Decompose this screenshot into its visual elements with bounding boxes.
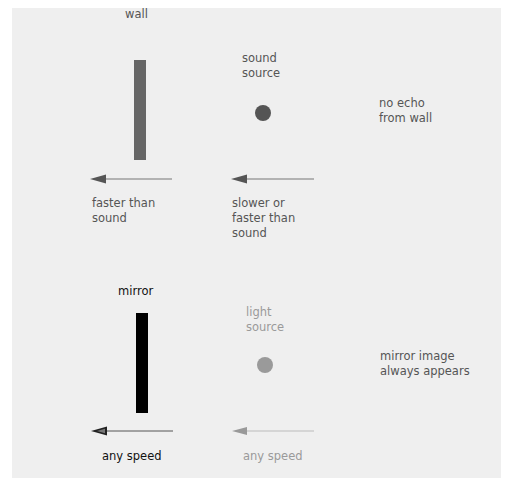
wall-motion-arrow-icon <box>90 173 174 185</box>
light-source-dot <box>257 357 273 373</box>
mirror-image-label: mirror image always appears <box>380 349 470 379</box>
mirror-speed-label: any speed <box>102 449 162 464</box>
light-motion-arrow-icon <box>232 425 316 437</box>
wall-label: wall <box>125 7 148 22</box>
wall-bar <box>134 60 146 160</box>
mirror-bar <box>136 313 148 413</box>
mirror-label: mirror <box>118 284 153 299</box>
light-source-label: light source <box>246 305 284 335</box>
no-echo-label: no echo from wall <box>379 96 432 126</box>
wall-speed-label: faster than sound <box>92 196 155 226</box>
sound-speed-label: slower or faster than sound <box>232 196 295 241</box>
sound-motion-arrow-icon <box>231 173 315 185</box>
mirror-motion-arrow-icon <box>91 425 175 437</box>
sound-source-dot <box>255 105 271 121</box>
light-speed-label: any speed <box>243 449 303 464</box>
sound-source-label: sound source <box>242 51 280 81</box>
